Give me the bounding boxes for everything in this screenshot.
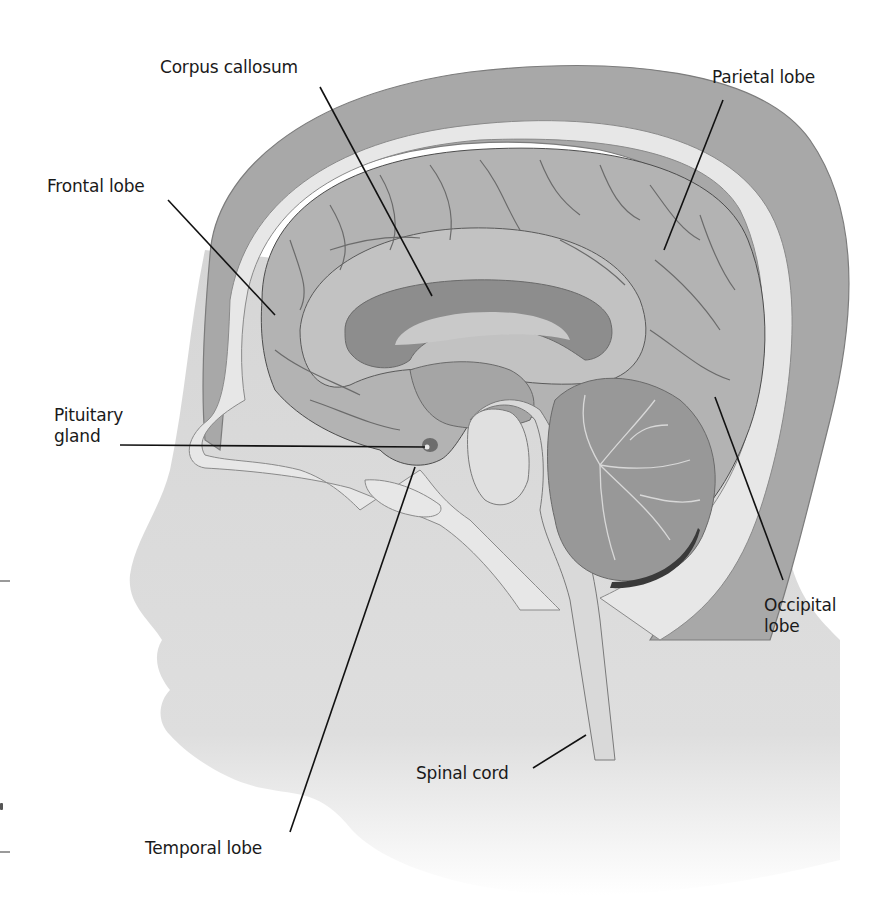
pituitary-gland-shape [422, 438, 438, 452]
label-temporal-lobe: Temporal lobe [145, 838, 262, 859]
label-frontal-lobe: Frontal lobe [47, 176, 145, 197]
label-spinal-cord: Spinal cord [416, 763, 509, 784]
edge-glyph-fragment [0, 803, 3, 810]
pituitary-highlight [425, 445, 430, 450]
label-parietal-lobe: Parietal lobe [712, 67, 815, 88]
label-occipital-lobe: Occipital lobe [764, 595, 836, 637]
edge-rule-top [0, 580, 10, 582]
label-corpus-callosum: Corpus callosum [160, 57, 298, 78]
label-pituitary-gland: Pituitary gland [54, 405, 123, 447]
edge-rule-bottom [0, 851, 10, 853]
